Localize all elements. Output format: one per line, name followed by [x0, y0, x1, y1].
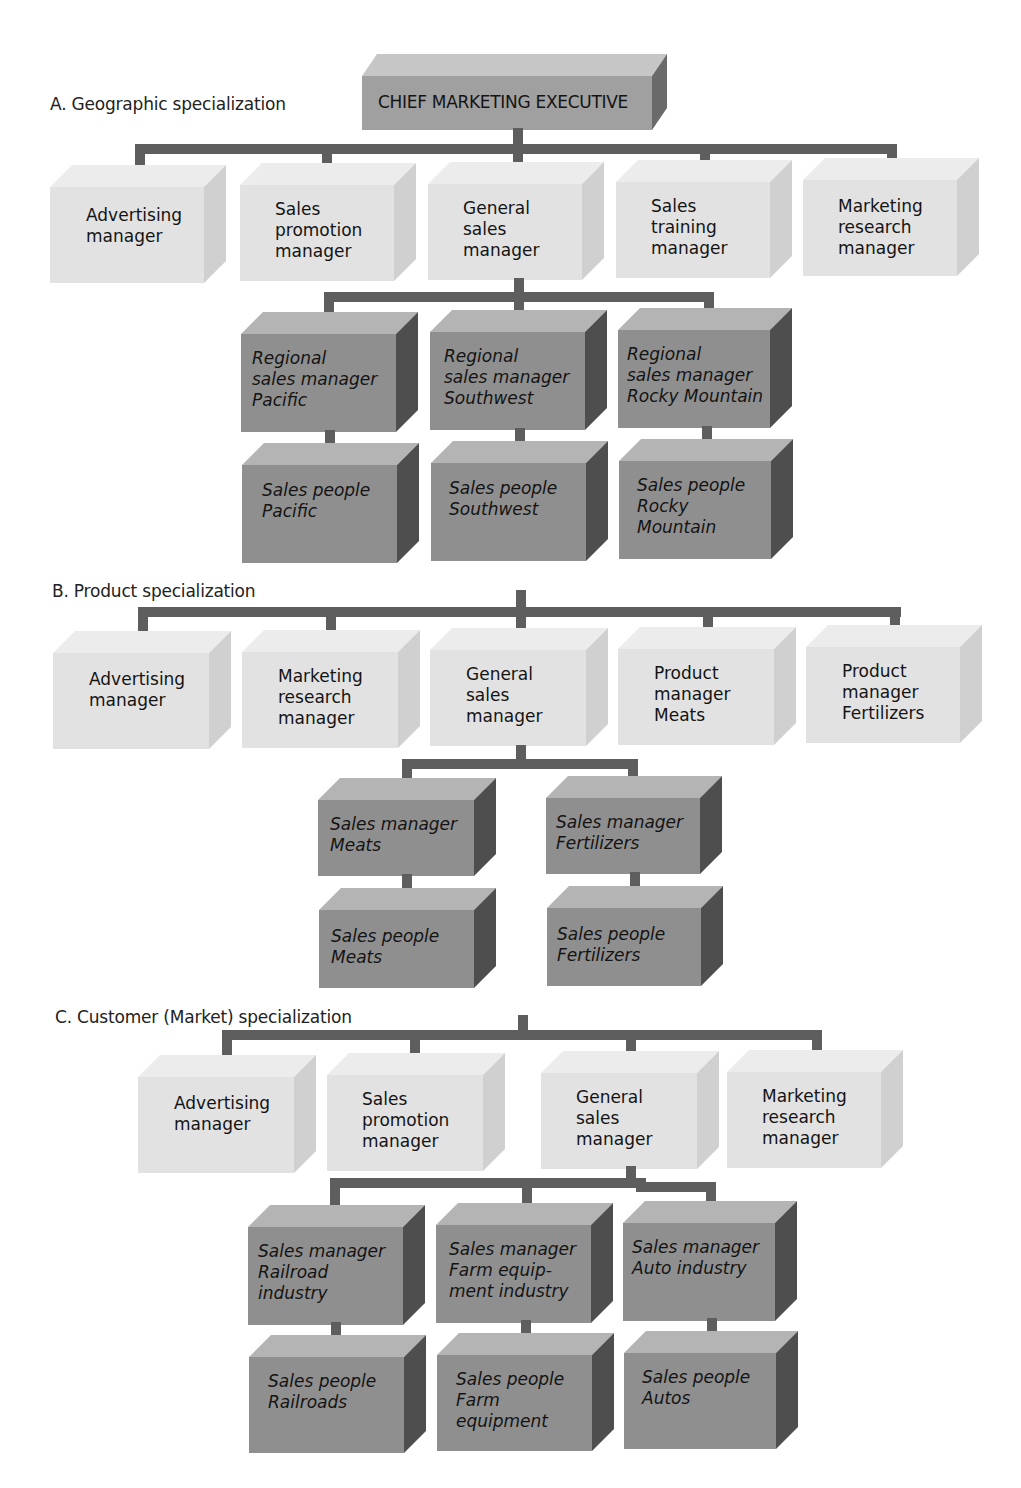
box-label: Sales training manager	[651, 196, 727, 259]
box-label: Advertising manager	[86, 205, 182, 247]
box-sales-people-meats: Sales people Meats	[319, 888, 496, 988]
connector	[330, 1178, 636, 1188]
box-sales-people-southwest: Sales people Southwest	[431, 441, 608, 561]
box-label: Marketing research manager	[762, 1086, 847, 1149]
connector	[138, 607, 901, 617]
box-label: General sales manager	[466, 664, 542, 727]
box-sales-people-rocky-mountain: Sales people Rocky Mountain	[619, 439, 793, 559]
box-label: Regional sales manager Rocky Mountain	[627, 344, 763, 407]
box-label: Product manager Fertilizers	[842, 661, 924, 724]
connector	[135, 144, 897, 154]
box-sales-promotion-manager: Sales promotion manager	[327, 1053, 505, 1171]
box-label: Sales people Rocky Mountain	[637, 475, 745, 538]
box-label: Product manager Meats	[654, 663, 730, 726]
box-label: Sales manager Meats	[330, 814, 457, 856]
box-label: Regional sales manager Southwest	[444, 346, 569, 409]
box-general-sales-manager: General sales manager	[430, 628, 608, 746]
box-label: Sales people Southwest	[449, 478, 557, 520]
box-label: Sales manager Auto industry	[632, 1237, 759, 1279]
box-label: Sales manager Railroad industry	[258, 1241, 385, 1304]
box-regional-manager-southwest: Regional sales manager Southwest	[430, 310, 607, 430]
box-advertising-manager: Advertising manager	[138, 1055, 316, 1173]
box-label: Sales manager Fertilizers	[556, 812, 683, 854]
connector	[636, 1182, 716, 1192]
box-sales-training-manager: Sales training manager	[616, 160, 792, 278]
box-label: Sales people Railroads	[268, 1371, 376, 1413]
box-label: Sales people Farm equipment	[456, 1369, 564, 1432]
box-label: Regional sales manager Pacific	[252, 348, 377, 411]
box-label: Sales people Fertilizers	[557, 924, 665, 966]
box-label: Sales manager Farm equip- ment industry	[449, 1239, 576, 1302]
box-sales-manager-auto: Sales manager Auto industry	[623, 1201, 797, 1321]
box-sales-people-farm-equipment: Sales people Farm equipment	[437, 1333, 614, 1451]
box-label: Advertising manager	[174, 1093, 270, 1135]
box-sales-manager-farm-equipment: Sales manager Farm equip- ment industry	[436, 1203, 613, 1323]
box-product-manager-meats: Product manager Meats	[618, 627, 796, 745]
box-marketing-research-manager: Marketing research manager	[803, 158, 979, 276]
box-label: Sales people Meats	[331, 926, 439, 968]
connector	[222, 1030, 822, 1040]
chief-marketing-executive-box: CHIEF MARKETING EXECUTIVE	[362, 54, 667, 130]
box-sales-manager-fertilizers: Sales manager Fertilizers	[546, 776, 722, 874]
box-sales-people-railroads: Sales people Railroads	[249, 1335, 426, 1453]
box-label: General sales manager	[576, 1087, 652, 1150]
box-label: Marketing research manager	[838, 196, 923, 259]
box-marketing-research-manager: Marketing research manager	[242, 630, 420, 748]
box-label: Sales promotion manager	[275, 199, 362, 262]
box-sales-people-autos: Sales people Autos	[624, 1331, 798, 1449]
box-regional-manager-pacific: Regional sales manager Pacific	[241, 312, 418, 432]
box-label: Sales people Autos	[642, 1367, 750, 1409]
box-sales-promotion-manager: Sales promotion manager	[240, 163, 416, 281]
connector	[402, 759, 638, 769]
box-sales-manager-meats: Sales manager Meats	[318, 778, 496, 876]
box-label: Marketing research manager	[278, 666, 363, 729]
box-general-sales-manager: General sales manager	[541, 1051, 719, 1169]
box-advertising-manager: Advertising manager	[50, 165, 226, 283]
section-a-title: A. Geographic specialization	[50, 94, 286, 114]
box-label: Advertising manager	[89, 669, 185, 711]
box-label: Sales people Pacific	[262, 480, 370, 522]
section-b-title: B. Product specialization	[52, 581, 255, 601]
box-marketing-research-manager: Marketing research manager	[727, 1050, 903, 1168]
box-label: General sales manager	[463, 198, 539, 261]
box-label: Sales promotion manager	[362, 1089, 449, 1152]
box-sales-manager-railroad: Sales manager Railroad industry	[248, 1205, 425, 1325]
chief-label: CHIEF MARKETING EXECUTIVE	[378, 92, 628, 113]
connector	[324, 292, 714, 302]
box-sales-people-pacific: Sales people Pacific	[242, 443, 419, 563]
box-product-manager-fertilizers: Product manager Fertilizers	[806, 625, 982, 743]
box-regional-manager-rocky-mountain: Regional sales manager Rocky Mountain	[618, 308, 792, 428]
box-sales-people-fertilizers: Sales people Fertilizers	[547, 886, 723, 986]
box-general-sales-manager: General sales manager	[428, 162, 604, 280]
section-c-title: C. Customer (Market) specialization	[55, 1007, 352, 1027]
box-advertising-manager: Advertising manager	[53, 631, 231, 749]
